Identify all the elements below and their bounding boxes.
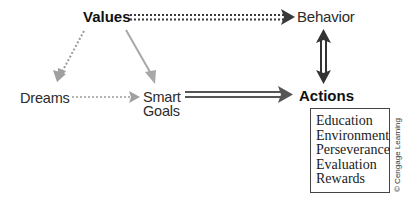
arrow-values-to-dreams [53,31,84,82]
factor-item: Rewards [316,172,389,187]
arrow-values-to-behavior [130,9,295,25]
node-smart-goals-line-2: Goals [143,104,181,118]
node-actions: Actions [299,88,354,103]
factor-item: Environment [316,129,389,144]
node-smart-goals-line-1: Smart [143,90,181,104]
node-dreams: Dreams [20,91,70,106]
action-factors-box: Education Environment Perseverance Evalu… [310,108,390,193]
arrow-smart-goals-to-actions [185,86,293,103]
factor-item: Evaluation [316,158,389,173]
node-values: Values [83,9,131,24]
node-smart-goals: Smart Goals [143,90,181,118]
arrow-behavior-actions-bidirectional [316,29,331,84]
arrow-values-to-smart-goals [126,30,156,84]
arrow-dreams-to-smart-goals [72,91,140,103]
factor-item: Education [316,114,389,129]
node-behavior: Behavior [297,9,355,24]
factor-item: Perseverance [316,143,389,158]
copyright-notice: © Cengage Learning [393,118,402,192]
